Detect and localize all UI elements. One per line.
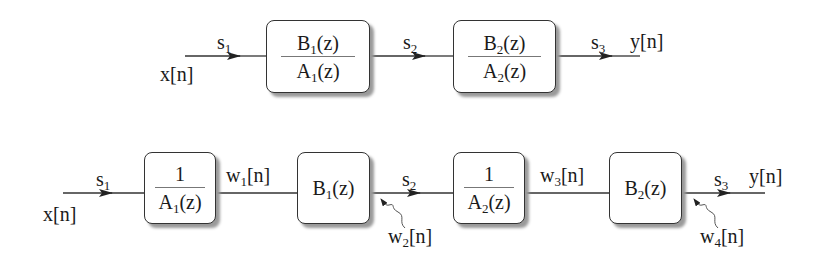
fraction-bar [464,187,514,188]
signal-w3: w3[n] [540,165,584,185]
bottom-signal-s1: s1 [96,169,110,189]
bottom-block-3[interactable]: 1 A2(z) [453,152,525,224]
bottom-input-label: x[n] [43,204,76,224]
fraction-bar [468,56,541,57]
fraction-bar [281,56,354,57]
bottom-signal-s3: s3 [714,169,728,189]
top-input-label: x[n] [160,64,193,84]
block-denominator: A1(z) [158,191,201,213]
bottom-output-label: y[n] [749,166,782,186]
top-block-2[interactable]: B2(z) A2(z) [453,20,556,93]
block-numerator: B2(z) [483,32,525,54]
fraction-bar [155,187,205,188]
block-numerator: 1 [484,163,494,185]
top-output-label: y[n] [630,31,663,51]
noise-w2-label: w2[n] [388,226,432,246]
noise-w4-squiggle [694,199,718,228]
bottom-block-1[interactable]: 1 A1(z) [144,152,216,224]
top-block-1[interactable]: B1(z) A1(z) [266,20,370,93]
block-denominator: A2(z) [483,60,526,82]
block-numerator: B1(z) [297,32,339,54]
block-label: B1(z) [312,177,354,199]
noise-w2-squiggle [381,199,405,228]
bottom-signal-s2: s2 [402,169,416,189]
bottom-block-4[interactable]: B2(z) [609,152,682,224]
block-numerator: 1 [175,163,185,185]
block-label: B2(z) [624,177,666,199]
signal-w1: w1[n] [226,165,270,185]
block-denominator: A1(z) [296,60,339,82]
noise-w4-label: w4[n] [700,226,744,246]
bottom-block-2[interactable]: B1(z) [297,152,370,224]
top-signal-s3: s3 [591,32,605,52]
block-denominator: A2(z) [467,191,510,213]
top-signal-s1: s1 [217,32,231,52]
top-signal-s2: s2 [403,32,417,52]
